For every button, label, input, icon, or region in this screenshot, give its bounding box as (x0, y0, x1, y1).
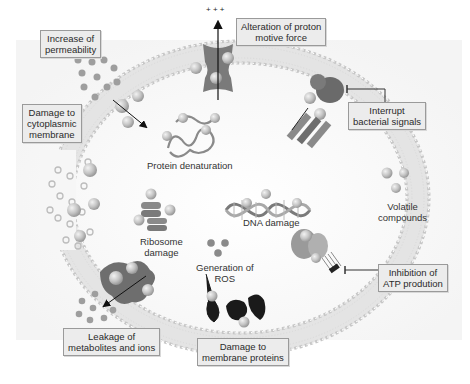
label-line: membrane (27, 129, 77, 140)
label-interrupt-bacterial-signals: Interrupt bacterial signals (348, 102, 426, 130)
label-volatile-compounds: Volatile compounds (378, 201, 427, 223)
label-increase-permeability: Increase of permeability (40, 30, 101, 58)
label-generation-ros: Generation of ROS (196, 262, 254, 284)
label-line: cytoplasmic (27, 118, 77, 129)
label-line: Volatile (378, 201, 427, 212)
label-line: Ribosome (140, 236, 183, 247)
label-line: Interrupt (353, 105, 421, 116)
label-alteration-proton-motive-force: Alteration of proton motive force (236, 18, 326, 46)
label-line: Damage to (202, 341, 284, 352)
label-damage-cytoplasmic-membrane: Damage to cytoplasmic membrane (22, 104, 82, 143)
diagram-canvas: + + + (0, 0, 470, 384)
label-inhibition-atp-production: Inhibition of ATP prodution (378, 264, 448, 292)
label-line: Increase of (45, 33, 96, 44)
label-line: Protein denaturation (147, 160, 233, 171)
label-line: Damage to (27, 107, 77, 118)
label-damage-membrane-proteins: Damage to membrane proteins (197, 338, 289, 366)
label-dna-damage: DNA damage (243, 217, 300, 228)
label-line: permeability (45, 44, 96, 55)
label-line: Leakage of (68, 331, 155, 342)
label-line: DNA damage (243, 217, 300, 228)
label-line: bacterial signals (353, 116, 421, 127)
label-ribosome-damage: Ribosome damage (140, 236, 183, 258)
label-line: membrane proteins (202, 352, 284, 363)
label-line: damage (140, 247, 183, 258)
label-protein-denaturation: Protein denaturation (147, 160, 233, 171)
label-leakage-metabolites-ions: Leakage of metabolites and ions (63, 328, 160, 356)
label-line: compounds (378, 212, 427, 223)
label-line: Alteration of proton (241, 21, 321, 32)
proton-channel-icon (203, 22, 234, 100)
charge-symbols: + + + (206, 5, 225, 14)
label-line: Generation of (196, 262, 254, 273)
label-line: ROS (196, 273, 254, 284)
label-line: metabolites and ions (68, 342, 155, 353)
label-line: Inhibition of (383, 267, 443, 278)
label-line: motive force (241, 32, 321, 43)
label-line: ATP prodution (383, 278, 443, 289)
